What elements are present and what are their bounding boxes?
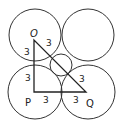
- label-OP-upper: 3: [24, 47, 30, 57]
- circle-center-small: [50, 54, 72, 76]
- label-vertex-O: O: [30, 28, 38, 39]
- label-OQ-lower: 3: [79, 74, 85, 84]
- circle-top-right: [62, 9, 114, 61]
- label-vertex-P: P: [25, 97, 31, 108]
- label-PQ-right: 3: [73, 95, 79, 105]
- label-OP-lower: 3: [25, 73, 31, 83]
- label-OQ-upper: 3: [46, 38, 52, 48]
- geometry-diagram: O P Q 3 3 3 3 3 3: [0, 0, 123, 129]
- label-PQ-left: 3: [43, 95, 49, 105]
- label-vertex-Q: Q: [86, 98, 94, 109]
